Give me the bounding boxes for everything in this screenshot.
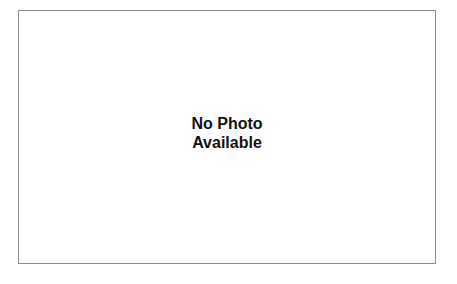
- no-photo-line1: No Photo: [191, 114, 262, 133]
- no-photo-message: No Photo Available: [191, 114, 262, 152]
- no-photo-line2: Available: [191, 133, 262, 152]
- photo-placeholder-frame: No Photo Available: [18, 10, 436, 264]
